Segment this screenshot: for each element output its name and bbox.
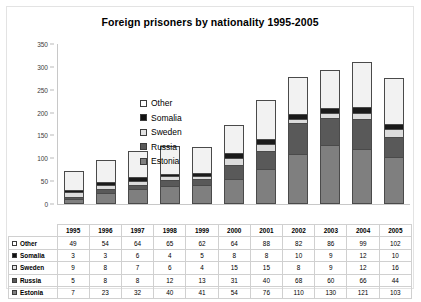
row-swatch-icon	[12, 241, 17, 246]
table-cell: 86	[315, 237, 347, 249]
table-cell: 12	[154, 274, 186, 286]
table-cell: 41	[186, 286, 218, 298]
legend-label: Russia	[151, 142, 177, 152]
table-cell: 102	[379, 237, 411, 249]
bar-segment-other	[65, 172, 83, 190]
table-cell: 49	[57, 237, 89, 249]
table-column-header: 1998	[154, 225, 186, 237]
table-cell: 8	[283, 262, 315, 274]
table-cell: 5	[186, 249, 218, 261]
legend-swatch-icon	[140, 114, 147, 121]
table-cell: 13	[186, 274, 218, 286]
row-label: Estonia	[20, 289, 43, 296]
y-axis-tick-mark	[50, 44, 54, 45]
bar-1996	[96, 160, 116, 204]
table-cell: 99	[347, 237, 379, 249]
table-column-header: 1999	[186, 225, 218, 237]
table-cell: 44	[379, 274, 411, 286]
table-cell: 7	[57, 286, 89, 298]
table-row-header-somalia: Somalia	[9, 249, 58, 261]
bar-segment-estonia	[161, 186, 179, 203]
bar-segment-estonia	[353, 149, 371, 203]
bar-segment-other	[97, 161, 115, 182]
bar-segment-estonia	[129, 189, 147, 203]
y-axis-tick-label: 350	[37, 41, 48, 48]
stacked-bar	[192, 147, 212, 204]
table-cell: 8	[121, 274, 153, 286]
table-cell: 5	[57, 274, 89, 286]
table-column-header: 1995	[57, 225, 89, 237]
table-column-header: 2001	[250, 225, 282, 237]
y-axis-tick-mark	[50, 89, 54, 90]
table-cell: 12	[347, 249, 379, 261]
table-column-header: 2005	[379, 225, 411, 237]
plot-area	[58, 44, 410, 204]
table-cell: 130	[315, 286, 347, 298]
y-axis-tick-label: 150	[37, 132, 48, 139]
y-axis-tick-label: 0	[44, 201, 48, 208]
stacked-bar	[352, 62, 372, 204]
table-row-header-russia: Russia	[9, 274, 58, 286]
table-cell: 12	[347, 262, 379, 274]
chart-title: Foreign prisoners by nationality 1995-20…	[6, 16, 414, 28]
legend-label: Somalia	[151, 113, 182, 123]
row-swatch-icon	[12, 265, 17, 270]
bar-segment-russia	[385, 137, 403, 157]
bar-segment-estonia	[385, 157, 403, 203]
table-cell: 54	[218, 286, 250, 298]
row-swatch-icon	[12, 290, 17, 295]
bar-segment-other	[353, 63, 371, 106]
bar-2000	[224, 125, 244, 204]
row-label: Somalia	[20, 252, 45, 259]
table-row-header-estonia: Estonia	[9, 286, 58, 298]
row-header-content: Sweden	[12, 264, 57, 271]
stacked-bar	[320, 70, 340, 204]
table-row: Russia5881213314068606644	[9, 274, 412, 286]
y-axis-tick-label: 50	[41, 178, 48, 185]
table-cell: 8	[89, 274, 121, 286]
y-axis-tick-mark	[50, 158, 54, 159]
bar-segment-russia	[321, 118, 339, 145]
y-axis: 050100150200250300350	[18, 44, 56, 204]
row-header-content: Estonia	[12, 289, 57, 296]
stacked-bar	[224, 125, 244, 204]
bar-segment-russia	[353, 119, 371, 149]
legend-item-sweden: Sweden	[140, 125, 182, 140]
bar-segment-other	[257, 101, 275, 139]
table-cell: 68	[283, 274, 315, 286]
row-header-content: Other	[12, 240, 57, 247]
bar-segment-estonia	[225, 179, 243, 203]
table-column-header: 2000	[218, 225, 250, 237]
row-header-content: Somalia	[12, 252, 57, 259]
table-cell: 103	[379, 286, 411, 298]
table-cell: 15	[218, 262, 250, 274]
row-swatch-icon	[12, 278, 17, 283]
row-header-content: Russia	[12, 277, 57, 284]
legend-item-estonia: Estonia	[140, 154, 182, 169]
bar-2002	[288, 77, 308, 204]
legend-label: Sweden	[151, 127, 182, 137]
table-cell: 10	[283, 249, 315, 261]
stacked-bar	[64, 171, 84, 204]
row-label: Sweden	[20, 264, 44, 271]
table-cell: 66	[347, 274, 379, 286]
table-cell: 64	[218, 237, 250, 249]
row-label: Russia	[20, 277, 41, 284]
table-cell: 31	[218, 274, 250, 286]
table-header-row: 1995199619971998199920002001200220032004…	[9, 225, 412, 237]
table-cell: 32	[121, 286, 153, 298]
table-cell: 40	[154, 286, 186, 298]
bar-segment-estonia	[193, 185, 211, 203]
legend-swatch-icon	[140, 158, 147, 165]
table-cell: 54	[89, 237, 121, 249]
bar-segment-sweden	[257, 144, 275, 151]
chart-area: 050100150200250300350 OtherSomaliaSweden…	[18, 44, 410, 222]
table-cell: 9	[57, 262, 89, 274]
y-axis-tick-mark	[50, 181, 54, 182]
table-cell: 7	[121, 262, 153, 274]
table-cell: 88	[250, 237, 282, 249]
table-cell: 4	[154, 249, 186, 261]
bar-segment-russia	[257, 151, 275, 169]
bar-segment-sweden	[225, 158, 243, 165]
legend-swatch-icon	[140, 129, 147, 136]
